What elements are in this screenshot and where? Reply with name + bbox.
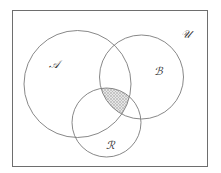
set-a-label: 𝒜 <box>49 59 59 70</box>
set-b-label: ℬ <box>154 66 163 77</box>
set-r-label: ℛ <box>106 140 115 151</box>
universe-label: 𝒰 <box>181 29 191 40</box>
